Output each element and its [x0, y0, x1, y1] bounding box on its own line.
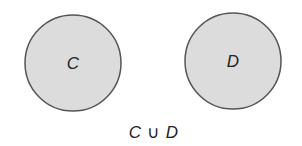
caption: C ∪ D: [129, 123, 178, 142]
set-c-label: C: [67, 54, 80, 73]
set-d-label: D: [227, 52, 239, 71]
set-d: D: [185, 13, 281, 109]
caption-left: C: [129, 123, 142, 142]
set-c: C: [25, 15, 121, 111]
caption-right: D: [166, 123, 178, 142]
union-operator: ∪: [147, 123, 159, 142]
venn-diagram: C D C ∪ D: [0, 0, 302, 146]
